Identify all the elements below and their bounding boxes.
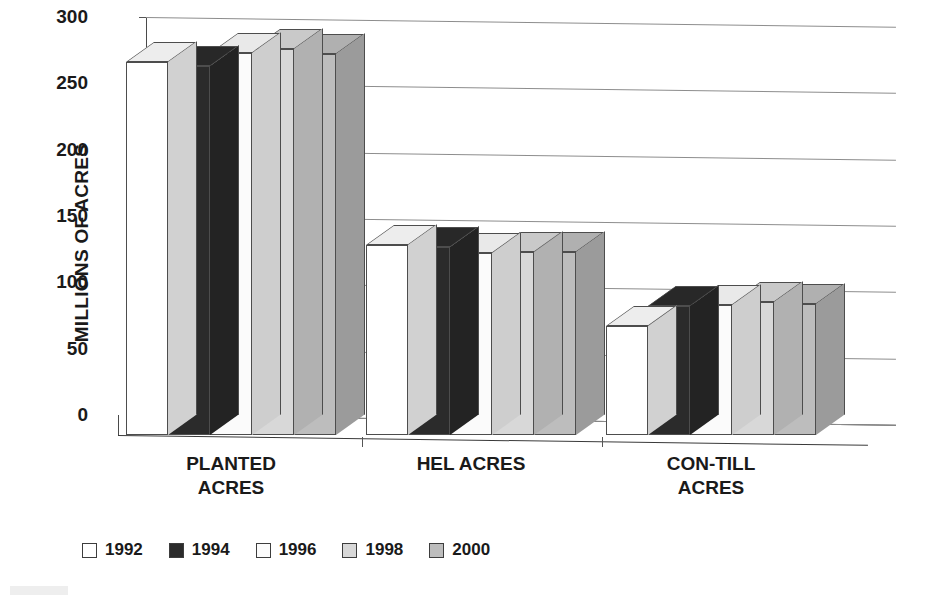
category-divider [362,437,363,447]
bar-side-face [336,34,365,435]
x-axis-category-label: PLANTEDACRES [111,452,351,501]
bar-side-face [816,283,845,435]
y-axis-tick-label: 0 [36,404,88,426]
y-axis-tick-label: 100 [36,271,88,293]
category-divider [602,437,603,447]
plot-area [118,20,900,450]
x-axis-category-label-line: ACRES [591,476,831,500]
legend-item: 1994 [169,540,230,560]
bar-chart-figure: MILLIONS OF ACRES 050100150200250300 199… [0,0,925,607]
legend-swatch [169,543,184,558]
bar-side-face [690,286,719,435]
x-axis-category-label: CON-TILLACRES [591,452,831,501]
legend-label: 1994 [192,540,230,560]
bar-side-face [450,226,479,435]
legend-label: 1996 [279,540,317,560]
legend-swatch [82,543,97,558]
x-axis-category-label-line: CON-TILL [591,452,831,476]
gridline [146,17,896,28]
bar-side-face [252,32,281,435]
x-axis-category-label: HEL ACRES [351,452,591,476]
legend-item: 1992 [82,540,143,560]
bar-side-face [648,306,677,435]
legend: 19921994199619982000 [82,540,516,560]
y-axis-tick-label: 250 [36,72,88,94]
bar-side-face [732,284,761,435]
legend-swatch [342,543,357,558]
bar [126,62,168,435]
bar-front-face [126,62,168,435]
y-axis-tick-label: 50 [36,338,88,360]
legend-item: 2000 [429,540,490,560]
bar-side-face [576,231,605,435]
bar-side-face [774,282,803,435]
bar [366,245,408,435]
legend-label: 1998 [365,540,403,560]
bar-side-face [408,225,437,435]
legend-label: 1992 [105,540,143,560]
y-axis-tick-label: 150 [36,205,88,227]
y-axis-tick-label: 200 [36,139,88,161]
legend-item: 1996 [256,540,317,560]
legend-item: 1998 [342,540,403,560]
y-axis-tick-label: 300 [36,6,88,28]
y-axis-tick-labels: 050100150200250300 [36,0,88,607]
bar-side-face [294,28,323,435]
bar-front-face [366,245,408,435]
bar-side-face [210,45,239,434]
x-axis-baseline-front [118,435,868,446]
legend-swatch [256,543,271,558]
x-axis-category-label-line: PLANTED [111,452,351,476]
legend-swatch [429,543,444,558]
x-axis-category-label-line: HEL ACRES [351,452,591,476]
y-axis-line-front [118,415,119,435]
bar [606,326,648,435]
bar-side-face [492,233,521,435]
bar-side-face [168,42,197,435]
bar-front-face [606,326,648,435]
scan-artifact [10,586,68,595]
y-axis-tick [139,17,146,18]
x-axis-category-label-line: ACRES [111,476,351,500]
legend-label: 2000 [452,540,490,560]
bar-side-face [534,231,563,435]
